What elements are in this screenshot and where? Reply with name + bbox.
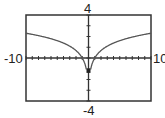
y-max-label: 4 — [84, 2, 91, 15]
plot-area — [0, 0, 165, 118]
y-min-label: -4 — [83, 104, 95, 117]
x-min-label: -10 — [4, 52, 23, 65]
x-max-label: 10 — [153, 52, 165, 65]
chart: 4 -4 -10 10 — [0, 0, 165, 118]
